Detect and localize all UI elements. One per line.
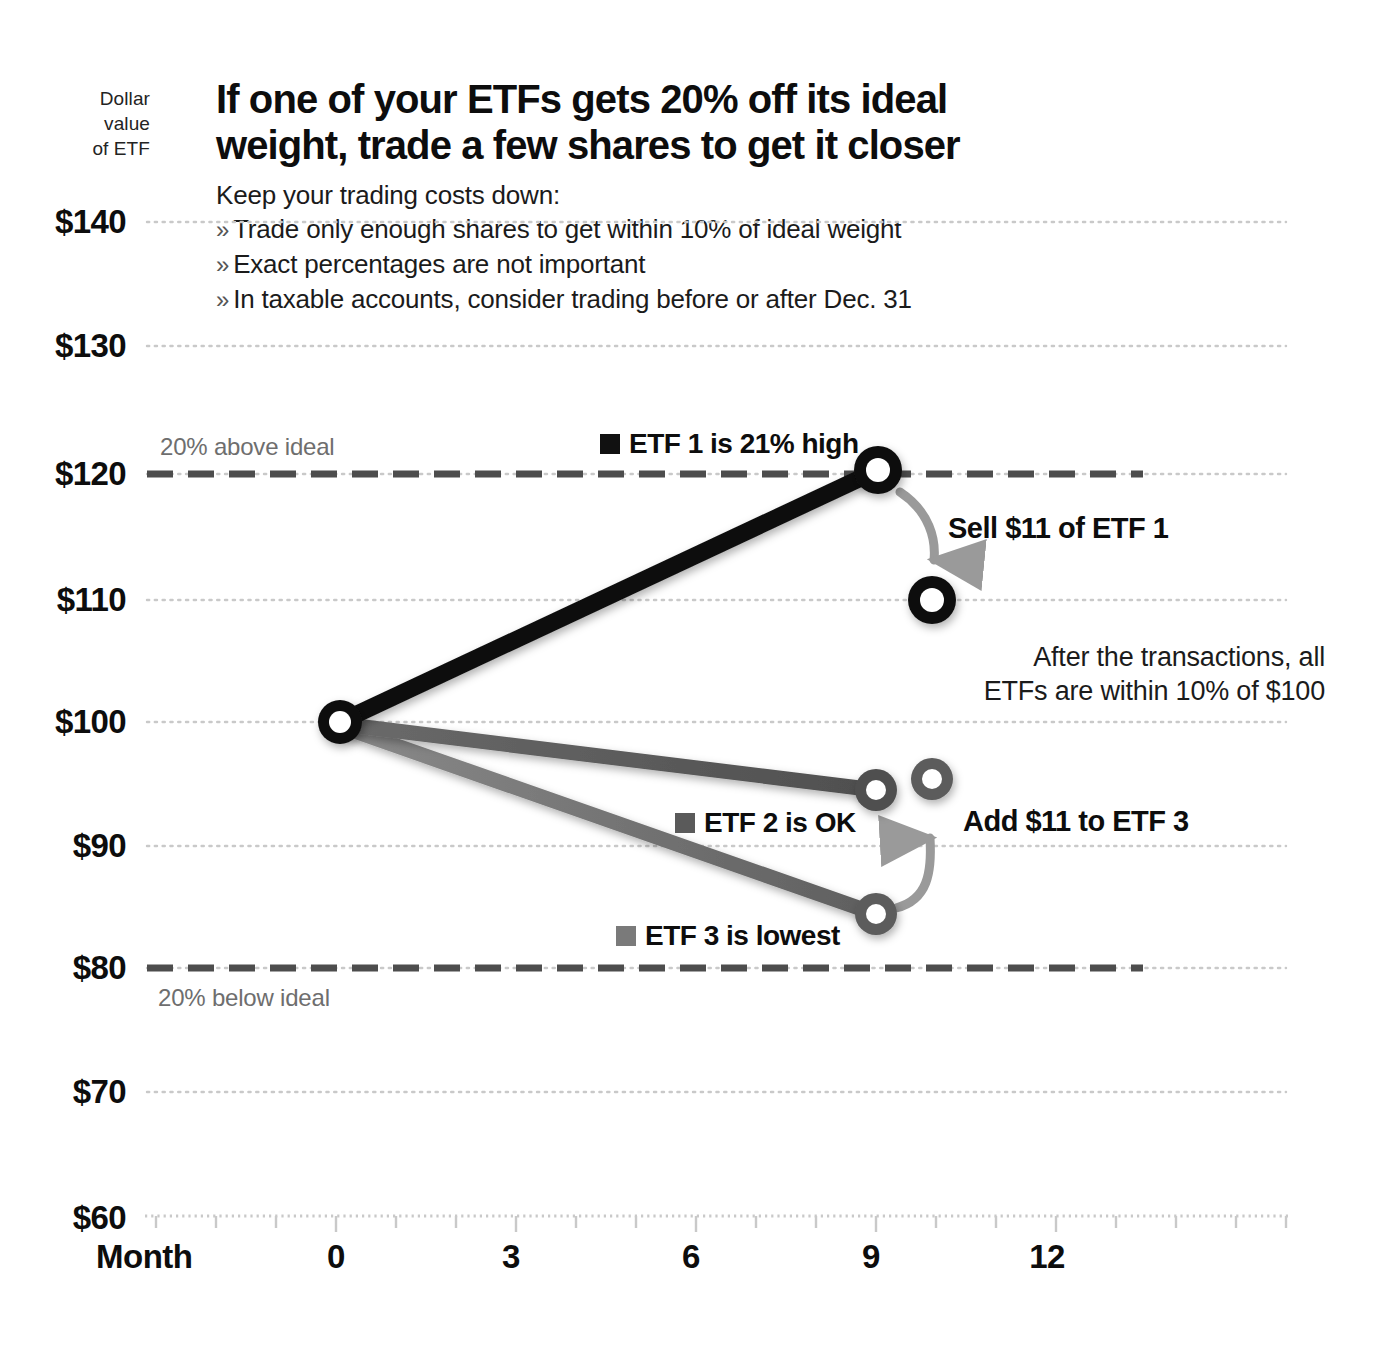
y-tick-label-100: $100: [8, 703, 126, 741]
data-point-origin: [318, 700, 362, 744]
after-transactions-note: After the transactions, all ETFs are wit…: [900, 640, 1325, 708]
y-tick-label-90: $90: [8, 827, 126, 865]
x-tick-label-6: 6: [682, 1238, 700, 1276]
series-label-etf2-text: ETF 2 is OK: [704, 807, 856, 839]
band-label-above-ideal: 20% above ideal: [160, 433, 334, 461]
x-tick-label-12: 12: [1029, 1238, 1065, 1276]
x-tick-label-0: 0: [327, 1238, 345, 1276]
series-label-etf1-text: ETF 1 is 21% high: [629, 428, 859, 460]
y-tick-label-60: $60: [8, 1199, 126, 1237]
data-point-etf2-month9: [855, 769, 897, 811]
band-label-below-ideal: 20% below ideal: [158, 984, 330, 1012]
y-tick-label-120: $120: [8, 455, 126, 493]
etf1-swatch-icon: [600, 434, 620, 454]
add-arrow-icon: [896, 838, 930, 908]
x-axis-ticks: [156, 1216, 1286, 1232]
sell-action-label: Sell $11 of ETF 1: [948, 512, 1168, 545]
x-axis-title: Month: [96, 1238, 192, 1276]
data-point-etf3-after-trade: [911, 758, 953, 800]
x-tick-label-3: 3: [502, 1238, 520, 1276]
x-tick-label-9: 9: [862, 1238, 880, 1276]
series-line-etf1: [340, 470, 878, 722]
after-transactions-note-line-1: After the transactions, all: [900, 640, 1325, 674]
series-label-etf2: ETF 2 is OK: [675, 807, 856, 839]
series-label-etf3: ETF 3 is lowest: [616, 920, 840, 952]
etf2-swatch-icon: [675, 813, 695, 833]
data-point-etf3-month9: [855, 893, 897, 935]
y-tick-label-140: $140: [8, 203, 126, 241]
data-point-etf1-month9: [854, 446, 902, 494]
y-tick-label-110: $110: [8, 581, 126, 619]
series-label-etf1: ETF 1 is 21% high: [600, 428, 859, 460]
y-tick-label-70: $70: [8, 1073, 126, 1111]
data-point-etf1-after-trade: [908, 576, 956, 624]
infographic-page: Dollar value of ETF If one of your ETFs …: [0, 0, 1377, 1349]
series-label-etf3-text: ETF 3 is lowest: [645, 920, 840, 952]
y-tick-label-130: $130: [8, 327, 126, 365]
etf3-swatch-icon: [616, 926, 636, 946]
y-tick-label-80: $80: [8, 949, 126, 987]
add-action-label: Add $11 to ETF 3: [963, 805, 1189, 838]
after-transactions-note-line-2: ETFs are within 10% of $100: [900, 674, 1325, 708]
sell-arrow-icon: [900, 492, 934, 560]
